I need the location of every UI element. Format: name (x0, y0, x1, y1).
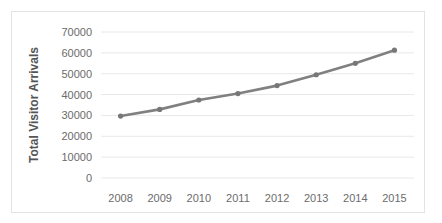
data-point-marker (235, 91, 240, 96)
x-axis-tick-label: 2009 (147, 192, 171, 204)
data-point-marker (118, 113, 123, 118)
y-axis-tick-label: 0 (86, 172, 92, 184)
x-axis-tick-label: 2008 (108, 192, 132, 204)
x-axis-tick-label: 2014 (343, 192, 367, 204)
data-point-marker (157, 107, 162, 112)
y-axis-tick-label: 30000 (61, 109, 92, 121)
x-axis-tick-label: 2010 (187, 192, 211, 204)
y-axis-tick-label: 70000 (61, 26, 92, 38)
x-axis-tick-label: 2015 (382, 192, 406, 204)
data-point-marker (196, 97, 201, 102)
data-point-marker (353, 61, 358, 66)
data-point-marker (274, 83, 279, 88)
chart-frame: 0100002000030000400005000060000700002008… (11, 11, 425, 213)
y-axis-tick-label: 40000 (61, 89, 92, 101)
x-axis-tick-label: 2011 (226, 192, 250, 204)
y-axis-tick-label: 50000 (61, 68, 92, 80)
y-axis-tick-label: 10000 (61, 151, 92, 163)
series-line (121, 50, 395, 116)
x-axis-tick-label: 2012 (265, 192, 289, 204)
x-axis-tick-label: 2013 (304, 192, 328, 204)
data-point-marker (392, 48, 397, 53)
y-axis-title: Total Visitor Arrivals (27, 47, 41, 163)
line-chart: 0100002000030000400005000060000700002008… (12, 12, 424, 212)
y-axis-tick-label: 20000 (61, 130, 92, 142)
y-axis-tick-label: 60000 (61, 47, 92, 59)
data-point-marker (314, 72, 319, 77)
